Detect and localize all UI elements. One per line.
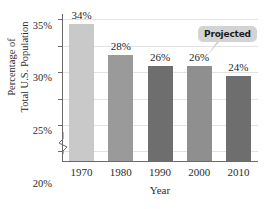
x-axis-tick-label: 1990	[149, 166, 171, 178]
y-axis-title-line-1: Percentage of	[6, 7, 19, 127]
y-axis-tick-label: 35%	[33, 19, 52, 30]
x-axis-tick-label: 2000	[188, 166, 210, 178]
bar: 24%	[226, 76, 251, 161]
bar-value-label: 34%	[72, 9, 92, 21]
y-axis-tick-label: 20%	[33, 178, 52, 189]
projected-annotation: Projected	[198, 26, 257, 42]
bar-value-label: 24%	[228, 61, 248, 73]
x-axis-tick-label: 2010	[227, 166, 249, 178]
callout-tail-icon	[205, 40, 221, 58]
x-axis-line	[62, 161, 258, 162]
y-axis-tick-label: 25%	[33, 125, 52, 136]
bar: 26%	[148, 66, 173, 161]
x-axis-tick-label: 1970	[71, 166, 93, 178]
y-axis-title-line-2: Total U.S. Population	[19, 7, 32, 127]
bar-value-label: 28%	[111, 40, 131, 52]
y-axis-tick-mark: 30%	[58, 46, 63, 47]
y-axis-title: Percentage of Total U.S. Population	[6, 7, 36, 127]
bar: 28%	[108, 55, 133, 161]
x-axis-tick-label: 1980	[110, 166, 132, 178]
y-axis-tick-mark: 25%	[58, 72, 63, 73]
x-axis-title: Year	[62, 184, 258, 196]
y-axis-tick-label: 30%	[33, 72, 52, 83]
y-axis-tick-mark: 35%	[58, 19, 63, 20]
bar-chart-figure: Percentage of Total U.S. Population 10%1…	[0, 0, 279, 209]
bar: 26%	[187, 66, 212, 161]
axis-break-icon	[57, 132, 69, 154]
bar: 34%	[69, 24, 94, 161]
bar-value-label: 26%	[150, 51, 170, 63]
y-axis-tick-mark: 20%	[58, 99, 63, 100]
y-axis-tick-mark: 15%	[58, 125, 63, 126]
